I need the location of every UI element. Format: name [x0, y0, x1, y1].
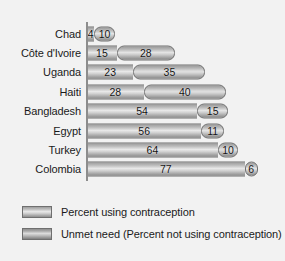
- bar-segment-using-contraception: 77: [86, 162, 245, 177]
- bar-value-label: 10: [99, 27, 111, 39]
- bar-row: Egypt5611: [10, 121, 275, 140]
- category-label: Colombia: [10, 163, 86, 175]
- stacked-bar: 1528: [86, 43, 275, 62]
- legend-swatch-icon: [22, 228, 52, 240]
- bar-row: Turkey6410: [10, 140, 275, 159]
- bar-segment-using-contraception: 56: [86, 123, 201, 138]
- bar-value-label: 10: [222, 144, 234, 156]
- bar-segment-using-contraception: 15: [86, 46, 117, 61]
- bar-row: Côte d'Ivoire1528: [10, 43, 275, 62]
- bar-segment-using-contraception: 54: [86, 104, 197, 119]
- legend-swatch-icon: [22, 206, 52, 218]
- bar-value-label: 64: [147, 144, 159, 156]
- category-label: Uganda: [10, 66, 86, 78]
- stacked-bar: 2335: [86, 63, 275, 82]
- bar-segment-using-contraception: 28: [86, 84, 144, 99]
- stacked-bar: 5415: [86, 102, 275, 121]
- bar-segment-using-contraception: 64: [86, 143, 218, 158]
- bar-row: Bangladesh5415: [10, 102, 275, 121]
- category-label: Bangladesh: [10, 105, 86, 117]
- stacked-bar: 2840: [86, 82, 275, 101]
- bar-segment-unmet-need: 10: [94, 26, 115, 41]
- stacked-bar: 410: [86, 24, 275, 43]
- bar-row: Colombia776: [10, 160, 275, 179]
- category-label: Côte d'Ivoire: [10, 47, 86, 59]
- category-label: Turkey: [10, 144, 86, 156]
- bar-segment-unmet-need: 11: [201, 123, 224, 138]
- legend-label: Unmet need (Percent not using contracept…: [61, 228, 282, 240]
- contraception-bar-chart: Chad410Côte d'Ivoire1528Uganda2335Haiti2…: [0, 0, 285, 261]
- bar-segment-unmet-need: 40: [144, 84, 226, 99]
- bar-value-label: 28: [140, 47, 152, 59]
- bar-value-label: 11: [207, 124, 218, 136]
- bar-segment-unmet-need: 15: [197, 104, 228, 119]
- bar-value-label: 40: [179, 85, 191, 97]
- category-label: Chad: [10, 28, 86, 40]
- bar-value-label: 77: [160, 163, 172, 175]
- bar-value-label: 6: [248, 163, 254, 175]
- legend-label: Percent using contraception: [61, 206, 195, 218]
- plot-area: Chad410Côte d'Ivoire1528Uganda2335Haiti2…: [10, 24, 275, 179]
- bar-value-label: 4: [88, 27, 94, 39]
- bar-segment-unmet-need: 6: [245, 162, 258, 177]
- bar-row: Uganda2335: [10, 63, 275, 82]
- stacked-bar: 5611: [86, 121, 275, 140]
- bar-segment-unmet-need: 10: [218, 143, 239, 158]
- bar-value-label: 15: [207, 105, 219, 117]
- category-label: Egypt: [10, 125, 86, 137]
- bar-value-label: 23: [104, 66, 116, 78]
- bar-value-label: 54: [136, 105, 148, 117]
- bar-segment-using-contraception: 23: [86, 65, 133, 80]
- chart-legend: Percent using contraceptionUnmet need (P…: [22, 202, 272, 246]
- bar-value-label: 35: [164, 66, 176, 78]
- bar-row: Chad410: [10, 24, 275, 43]
- y-axis-baseline: [86, 22, 88, 181]
- stacked-bar: 776: [86, 160, 275, 179]
- bar-value-label: 56: [138, 124, 150, 136]
- bar-segment-unmet-need: 35: [133, 65, 205, 80]
- stacked-bar: 6410: [86, 140, 275, 159]
- bar-row: Haiti2840: [10, 82, 275, 101]
- category-label: Haiti: [10, 86, 86, 98]
- legend-item: Unmet need (Percent not using contracept…: [22, 224, 272, 243]
- bar-value-label: 15: [96, 47, 108, 59]
- bar-value-label: 28: [109, 85, 121, 97]
- legend-item: Percent using contraception: [22, 202, 272, 221]
- bar-segment-unmet-need: 28: [117, 46, 175, 61]
